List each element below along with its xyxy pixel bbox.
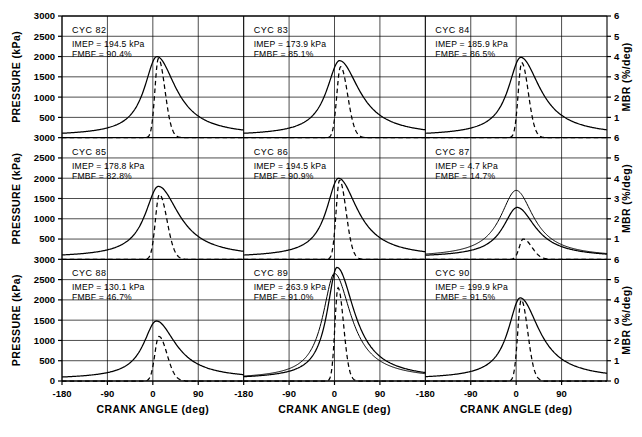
y2-tick-label: 6 [614, 132, 619, 143]
y-tick-label: 2000 [34, 173, 55, 184]
y2-tick-label: 2 [614, 92, 619, 103]
panel-cycle-label: CYC 87 [435, 147, 470, 157]
x-tick-label: 0 [150, 388, 155, 399]
y2-tick-label: 1 [614, 233, 620, 244]
y-tick-label: 1000 [34, 92, 55, 103]
y2-tick-label: 3 [614, 315, 619, 326]
panel-imep-label: IMEP = 185.9 kPa [435, 39, 508, 49]
y-tick-label: 500 [39, 112, 55, 123]
panel-fmbf-label: FMBF = 85.1% [254, 49, 314, 59]
panel-cycle-label: CYC 88 [72, 268, 107, 278]
x-tick-label: -180 [416, 388, 435, 399]
panel-cycle-label: CYC 82 [72, 25, 107, 35]
y-tick-label: 3000 [34, 10, 55, 21]
x-tick-label: 90 [375, 388, 386, 399]
panel-cycle-label: CYC 84 [435, 25, 470, 35]
panel-cycle-label: CYC 86 [254, 147, 289, 157]
x-tick-label: 0 [332, 388, 337, 399]
y-tick-label: 2000 [34, 294, 55, 305]
y-tick-label: 0 [50, 375, 55, 386]
y-tick-label: 1500 [34, 315, 55, 326]
y2-tick-label: 3 [614, 193, 619, 204]
y-tick-label: 3000 [34, 132, 55, 143]
panel-cycle-label: CYC 83 [254, 25, 289, 35]
y2-tick-label: 1 [614, 355, 620, 366]
left-axis-title: PRESSURE (kPa) [10, 153, 22, 245]
y2-tick-label: 6 [614, 254, 619, 265]
y-tick-label: 1000 [34, 213, 55, 224]
x-tick-label: 0 [514, 388, 519, 399]
y-tick-label: 1500 [34, 193, 55, 204]
panel-cycle-label: CYC 89 [254, 268, 289, 278]
x-tick-label: -90 [101, 388, 115, 399]
right-axis-title: MBR (%/deg) [620, 42, 632, 111]
x-axis-title: CRANK ANGLE (deg) [278, 403, 391, 415]
y2-tick-label: 2 [614, 335, 619, 346]
x-tick-label: 90 [556, 388, 567, 399]
left-axis-title: PRESSURE (kPa) [10, 31, 22, 123]
panel-imep-label: IMEP = 178.8 kPa [72, 161, 145, 171]
y2-tick-label: 2 [614, 213, 619, 224]
y-tick-label: 500 [39, 355, 55, 366]
panel-imep-label: IMEP = 263.9 kPa [254, 282, 327, 292]
panel-cycle-label: CYC 85 [72, 147, 107, 157]
y2-tick-label: 5 [614, 274, 620, 285]
x-axis-title: CRANK ANGLE (deg) [97, 403, 210, 415]
y-tick-label: 1500 [34, 71, 55, 82]
panel-fmbf-label: FMBF = 86.5% [435, 49, 495, 59]
y2-tick-label: 0 [614, 375, 619, 386]
panel-fmbf-label: FMBF = 82.8% [72, 171, 132, 181]
y-tick-label: 2500 [34, 152, 55, 163]
panel-fmbf-label: FMBF = 14.7% [435, 171, 495, 181]
y2-tick-label: 5 [614, 31, 620, 42]
panel-fmbf-label: FMBF = 91.5% [435, 292, 495, 302]
panel-imep-label: IMEP = 194.5 kPa [254, 161, 327, 171]
left-axis-title: PRESSURE (kPa) [10, 274, 22, 366]
x-tick-label: -90 [282, 388, 296, 399]
right-axis-title: MBR (%/deg) [620, 164, 632, 233]
y-tick-label: 500 [39, 233, 55, 244]
panel-cycle-label: CYC 90 [435, 268, 470, 278]
panel-fmbf-label: FMBF = 90.9% [254, 171, 314, 181]
x-tick-label: -180 [234, 388, 253, 399]
y-tick-label: 3000 [34, 254, 55, 265]
cycle-pressure-mbr-chart: CYC 82IMEP = 194.5 kPaFMBF = 90.4%CYC 83… [0, 0, 642, 437]
panel-imep-label: IMEP = 173.9 kPa [254, 39, 327, 49]
panel-fmbf-label: FMBF = 90.4% [72, 49, 132, 59]
panel-imep-label: IMEP = 4.7 kPa [435, 161, 498, 171]
x-tick-label: -180 [52, 388, 71, 399]
x-tick-label: 90 [193, 388, 204, 399]
x-axis-title: CRANK ANGLE (deg) [460, 403, 573, 415]
figure-container: CYC 82IMEP = 194.5 kPaFMBF = 90.4%CYC 83… [0, 0, 642, 437]
right-axis-title: MBR (%/deg) [620, 286, 632, 355]
y2-tick-label: 3 [614, 71, 619, 82]
y2-tick-label: 1 [614, 112, 620, 123]
y-tick-label: 2000 [34, 51, 55, 62]
x-tick-label: -90 [464, 388, 478, 399]
y-tick-label: 1000 [34, 335, 55, 346]
panel-imep-label: IMEP = 194.5 kPa [72, 39, 145, 49]
panel-fmbf-label: FMBF = 46.7% [72, 292, 132, 302]
y2-tick-label: 6 [614, 10, 619, 21]
panel-imep-label: IMEP = 199.9 kPa [435, 282, 508, 292]
y2-tick-label: 5 [614, 152, 620, 163]
y-tick-label: 2500 [34, 31, 55, 42]
panel-fmbf-label: FMBF = 91.0% [254, 292, 314, 302]
y-tick-label: 2500 [34, 274, 55, 285]
panel-imep-label: IMEP = 130.1 kPa [72, 282, 145, 292]
